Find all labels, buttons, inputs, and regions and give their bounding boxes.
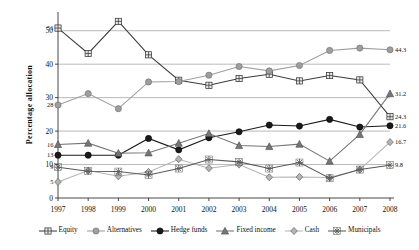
marker-circle	[85, 91, 91, 97]
x-tick-label: 2005	[292, 205, 307, 214]
marker-circle	[387, 47, 393, 53]
marker-filled-circle	[176, 147, 182, 153]
legend-item-alternatives[interactable]: Alternatives	[87, 226, 142, 236]
series-end-label: 16.7	[395, 138, 407, 145]
plot-area: 0102030405019971998199920002001200220032…	[0, 0, 419, 250]
series-line	[58, 48, 390, 109]
series-end-label: 31.2	[395, 90, 406, 97]
marker-filled-circle	[157, 228, 163, 234]
legend-marker-filled-circle-icon	[151, 226, 169, 236]
marker-circle	[115, 106, 121, 112]
marker-triangle	[386, 90, 393, 97]
percentage-allocation-line-chart: Percentage allocation 010203040501997199…	[0, 0, 419, 250]
legend-label: Municipals	[348, 227, 380, 234]
legend-label: Equity	[59, 227, 78, 234]
marker-filled-circle	[85, 152, 91, 158]
y-tick-label: 40	[46, 60, 54, 69]
marker-filled-circle	[266, 122, 272, 128]
series-end-label: 44.3	[395, 46, 406, 53]
marker-filled-circle	[327, 116, 333, 122]
marker-filled-circle	[55, 152, 61, 158]
series-line	[58, 21, 390, 116]
marker-filled-circle	[236, 129, 242, 135]
legend-label: Hedge funds	[171, 227, 208, 234]
x-tick-label: 2000	[141, 205, 156, 214]
legend-marker-triangle-icon	[216, 226, 234, 236]
chart-legend: EquityAlternativesHedge fundsFixed incom…	[0, 226, 419, 236]
marker-filled-circle	[357, 124, 363, 130]
series-start-label: 28	[47, 101, 53, 108]
legend-item-municipals[interactable]: Municipals	[328, 226, 380, 236]
x-tick-label: 2003	[232, 205, 247, 214]
series-end-label: 9.8	[395, 161, 403, 168]
marker-triangle	[205, 130, 212, 137]
legend-label: Alternatives	[107, 227, 142, 234]
x-tick-label: 1999	[111, 205, 126, 214]
series-start-label: 5	[50, 178, 53, 185]
marker-circle	[266, 68, 272, 74]
marker-diamond	[55, 178, 62, 185]
marker-circle	[357, 45, 363, 51]
marker-circle	[296, 62, 302, 68]
x-tick-label: 1998	[81, 205, 96, 214]
y-tick-label: 0	[49, 194, 53, 203]
series-municipals: 99.8	[50, 156, 403, 182]
y-tick-label: 20	[46, 127, 54, 136]
marker-circle	[93, 228, 99, 234]
legend-item-cash[interactable]: Cash	[285, 226, 319, 236]
series-line	[58, 160, 390, 179]
marker-circle	[176, 78, 182, 84]
series-end-label: 21.6	[395, 122, 406, 129]
marker-circle	[55, 102, 61, 108]
series-line	[58, 142, 390, 182]
series-fixed-income: 1631.2	[47, 90, 406, 164]
x-tick-label: 2006	[322, 205, 337, 214]
series-end-label: 24.3	[395, 113, 406, 120]
series-hedge-funds: 1321.6	[47, 116, 406, 158]
marker-filled-circle	[145, 135, 151, 141]
marker-diamond	[206, 165, 213, 172]
legend-marker-asterisk-icon	[328, 226, 346, 236]
legend-marker-plus-square-icon	[39, 226, 57, 236]
marker-circle	[236, 63, 242, 69]
series-start-label: 13	[47, 151, 53, 158]
series-start-label: 51	[47, 24, 53, 31]
marker-filled-circle	[387, 123, 393, 129]
series-cash: 516.7	[50, 138, 407, 185]
marker-circle	[206, 72, 212, 78]
legend-label: Cash	[305, 227, 319, 234]
legend-label: Fixed income	[236, 227, 275, 234]
marker-diamond	[290, 227, 297, 234]
marker-circle	[145, 79, 151, 85]
legend-marker-circle-icon	[87, 226, 105, 236]
legend-marker-diamond-icon	[285, 226, 303, 236]
legend-item-fixed-income[interactable]: Fixed income	[216, 226, 275, 236]
series-start-label: 9	[50, 163, 53, 170]
marker-circle	[327, 47, 333, 53]
marker-diamond	[266, 174, 273, 181]
x-tick-label: 2007	[352, 205, 367, 214]
marker-diamond	[175, 156, 182, 163]
x-tick-label: 2002	[201, 205, 216, 214]
marker-filled-circle	[296, 123, 302, 129]
x-tick-label: 1997	[51, 205, 66, 214]
series-start-label: 16	[47, 141, 53, 148]
marker-diamond	[296, 173, 303, 180]
x-tick-label: 2001	[171, 205, 186, 214]
x-tick-label: 2008	[383, 205, 398, 214]
series-equity: 5124.3	[47, 18, 406, 120]
legend-item-equity[interactable]: Equity	[39, 226, 78, 236]
legend-item-hedge-funds[interactable]: Hedge funds	[151, 226, 208, 236]
x-tick-label: 2004	[262, 205, 277, 214]
